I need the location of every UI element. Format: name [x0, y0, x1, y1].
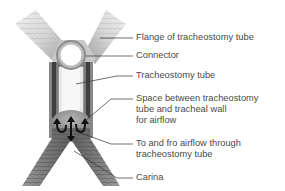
label-text: for airflow [136, 115, 258, 126]
connector [56, 40, 86, 70]
label-text: Space between tracheostomy [136, 93, 258, 104]
label-flange: Flange of tracheostomy tube [136, 32, 254, 43]
bronchi [22, 138, 120, 186]
tracheostomy-tube [58, 66, 84, 114]
label-text: To and fro airflow through [136, 138, 241, 149]
label-text: tracheostomy tube [136, 149, 241, 160]
label-text: Connector [136, 50, 179, 61]
label-text: Carina [136, 172, 163, 183]
label-text: tube and tracheal wall [136, 104, 258, 115]
label-space: Space between tracheostomy tube and trac… [136, 93, 258, 126]
label-text: Flange of tracheostomy tube [136, 32, 254, 43]
label-connector: Connector [136, 50, 179, 61]
label-text: Tracheostomy tube [136, 70, 215, 81]
label-tracheostomy-tube: Tracheostomy tube [136, 70, 215, 81]
label-airflow: To and fro airflow through tracheostomy … [136, 138, 241, 160]
label-carina: Carina [136, 172, 163, 183]
